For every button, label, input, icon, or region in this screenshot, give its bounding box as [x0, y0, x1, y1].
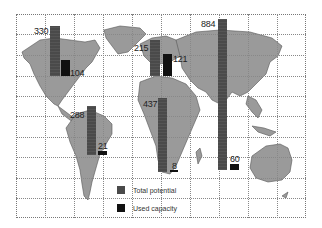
- gridline-v: [248, 14, 249, 218]
- bar-used-asia: [230, 164, 239, 170]
- legend-label-used: Used capacity: [133, 205, 177, 212]
- bar-total-asia: [218, 19, 227, 170]
- label-total-africa: 437: [143, 99, 157, 109]
- label-used-south-america: 21: [98, 141, 107, 151]
- bar-used-north-america: [61, 60, 70, 76]
- legend-label-total: Total potential: [133, 187, 176, 194]
- legend: Total potential Used capacity: [117, 183, 177, 219]
- bar-total-north-america: [50, 26, 60, 76]
- label-used-europe: 121: [173, 54, 187, 64]
- gridline-v: [45, 14, 46, 218]
- label-total-asia: 884: [201, 19, 215, 29]
- bar-total-africa: [158, 98, 167, 172]
- label-used-africa: 8: [172, 161, 177, 171]
- legend-item-used-capacity: Used capacity: [117, 201, 177, 215]
- world-map-chart: 330 104 215 121 288 21 437 8 884 60 Tota…: [0, 0, 322, 228]
- legend-swatch-total: [117, 186, 125, 194]
- bar-total-europe: [150, 40, 160, 76]
- label-used-north-america: 104: [70, 68, 84, 78]
- label-total-europe: 215: [134, 43, 148, 53]
- legend-item-total-potential: Total potential: [117, 183, 177, 197]
- label-used-asia: 60: [230, 154, 239, 164]
- bar-used-south-america: [98, 151, 107, 155]
- gridline-v: [277, 14, 278, 218]
- gridline-v: [190, 14, 191, 218]
- label-total-north-america: 330: [34, 26, 48, 36]
- gridline-v: [103, 14, 104, 218]
- bar-used-europe: [163, 54, 172, 76]
- legend-swatch-used: [117, 204, 125, 212]
- bar-total-south-america: [87, 106, 96, 155]
- label-total-south-america: 288: [70, 110, 84, 120]
